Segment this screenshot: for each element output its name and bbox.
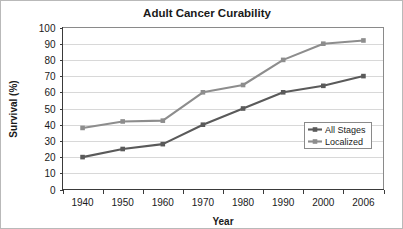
y-axis-tick-label: 10 [44,168,56,179]
x-axis-tick-label: 1950 [112,197,135,208]
y-axis-tick-label: 100 [39,23,56,34]
x-axis-title: Year [212,216,233,227]
data-point-marker [241,106,246,111]
y-axis-tick-label: 0 [50,185,56,196]
x-axis-tick-label: 1970 [192,197,215,208]
y-axis-tick-label: 60 [44,87,56,98]
y-axis-tick-label: 70 [44,71,56,82]
chart-figure: Adult Cancer Curability 0102030405060708… [0,0,403,229]
x-axis-tick-label: 2000 [312,197,335,208]
data-point-marker [80,155,85,160]
x-axis-tick-label: 1980 [232,197,255,208]
y-axis-tick-label: 90 [44,39,56,50]
plot-area-border [63,28,384,190]
data-point-marker [80,126,85,131]
x-axis-tick-label: 2006 [352,197,375,208]
y-axis-tick-label: 20 [44,152,56,163]
data-point-marker [281,90,286,95]
y-axis-tick-label: 40 [44,120,56,131]
data-point-marker [161,142,166,147]
chart-legend[interactable]: All StagesLocalized [305,123,372,149]
data-point-marker [321,84,326,89]
y-axis-tick-label: 50 [44,104,56,115]
data-point-marker [241,83,246,88]
x-axis-ticks-group [64,190,385,194]
chart-canvas: Adult Cancer Curability 0102030405060708… [1,1,403,229]
x-axis-tick-label: 1940 [71,197,94,208]
data-point-marker [120,119,125,124]
y-axis-title: Survival (%) [8,80,19,137]
y-axis-tick-label: 80 [44,55,56,66]
legend-label[interactable]: All Stages [325,125,366,135]
gridlines-group [63,45,384,174]
data-point-marker [321,41,326,46]
y-axis-tick-labels-group: 0102030405060708090100 [39,23,56,196]
data-point-marker [201,122,206,127]
legend-marker-swatch [313,127,318,132]
data-point-marker [120,147,125,152]
data-point-marker [201,90,206,95]
data-point-marker [361,38,366,43]
legend-label[interactable]: Localized [325,137,363,147]
data-point-marker [161,118,166,123]
data-point-marker [281,58,286,63]
x-axis-tick-label: 1990 [272,197,295,208]
x-axis-tick-label: 1960 [152,197,175,208]
data-point-marker [361,74,366,79]
x-axis-tick-labels-group: 19401950196019701980199020002006 [71,197,375,208]
chart-title: Adult Cancer Curability [143,7,271,19]
legend-marker-swatch [313,139,318,144]
y-axis-tick-label: 30 [44,136,56,147]
